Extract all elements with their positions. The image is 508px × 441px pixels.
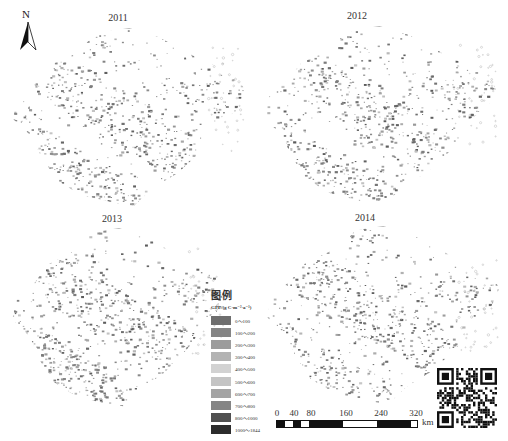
legend-label: 800～1000 — [235, 414, 258, 421]
scale-bar-segments — [276, 420, 418, 428]
gpp-map-2011 — [8, 28, 248, 208]
legend-swatch — [211, 328, 231, 337]
scale-tick: 0 — [275, 408, 280, 418]
legend-swatch — [211, 425, 231, 434]
legend-label: 200～300 — [235, 341, 255, 348]
legend-item: 300～400 — [211, 351, 271, 363]
gpp-map-2013 — [8, 228, 228, 408]
legend-label: 600～700 — [235, 390, 255, 397]
legend-swatch — [211, 340, 231, 349]
legend-item: 100～200 — [211, 326, 271, 338]
legend-item: 800～1000 — [211, 412, 271, 424]
scale-tick: 40 — [290, 408, 299, 418]
legend-swatch — [211, 364, 231, 373]
scale-tick: 240 — [374, 408, 388, 418]
legend-swatch — [211, 413, 231, 422]
scale-tick-labels: 0 40 80 160 240 320 — [274, 408, 424, 418]
legend-label: 1000～1844 — [235, 426, 260, 433]
legend-label: 0～100 — [235, 317, 250, 324]
legend-label: 500～600 — [235, 378, 255, 385]
legend-swatch — [211, 377, 231, 386]
scale-bar: 0 40 80 160 240 320 km — [274, 408, 444, 434]
panel-title-2012: 2012 — [337, 10, 377, 21]
legend-label: 100～200 — [235, 329, 255, 336]
legend-item: 600～700 — [211, 387, 271, 399]
legend-item: 200～300 — [211, 338, 271, 350]
legend-label: 400～500 — [235, 365, 255, 372]
panel-title-2014: 2014 — [345, 212, 385, 223]
legend-swatch — [211, 401, 231, 410]
legend-unit: GPP/(g C·m⁻²·a⁻¹) — [211, 304, 271, 310]
scale-unit: km — [422, 417, 434, 427]
legend-item: 400～500 — [211, 363, 271, 375]
legend-swatch — [211, 316, 231, 325]
scale-tick: 80 — [307, 408, 316, 418]
legend-item: 1000～1844 — [211, 424, 271, 436]
gpp-map-2012 — [258, 26, 498, 206]
scale-tick: 320 — [409, 408, 423, 418]
panel-title-2013: 2013 — [92, 213, 132, 224]
legend-swatch — [211, 352, 231, 361]
map-panel-2011 — [8, 28, 248, 208]
legend-swatch — [211, 389, 231, 398]
map-legend: 图例 GPP/(g C·m⁻²·a⁻¹) 0～100100～200200～300… — [211, 287, 271, 436]
scale-tick: 160 — [339, 408, 353, 418]
legend-heading: 图例 — [211, 287, 271, 302]
legend-label: 700～800 — [235, 402, 255, 409]
map-panel-2012 — [258, 26, 498, 206]
legend-label: 300～400 — [235, 353, 255, 360]
legend-item: 500～600 — [211, 375, 271, 387]
qr-code-icon — [437, 367, 497, 429]
legend-item: 700～800 — [211, 399, 271, 411]
legend-item: 0～100 — [211, 314, 271, 326]
panel-title-2011: 2011 — [98, 12, 138, 23]
map-panel-2013 — [8, 228, 228, 408]
